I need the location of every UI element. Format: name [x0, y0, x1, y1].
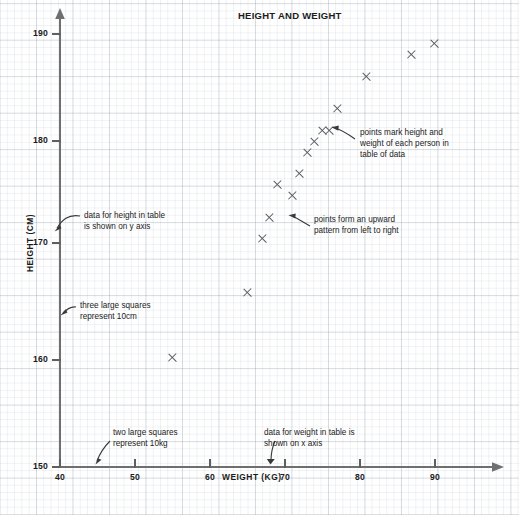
y-tick-160: [52, 359, 61, 361]
y-tick-190: [52, 33, 61, 35]
x-tick-label-50: 50: [122, 472, 148, 482]
x-tick-40: [59, 459, 61, 468]
x-tick-90: [434, 459, 436, 468]
x-axis-title: WEIGHT (KG): [222, 472, 281, 482]
plot-area: HEIGHT AND WEIGHT 190 180 170 160 150 40…: [0, 0, 519, 515]
axis-arrowheads: [0, 0, 519, 515]
x-tick-70: [284, 459, 286, 468]
y-axis-title: HEIGHT (CM): [25, 203, 35, 283]
x-tick-60: [209, 459, 211, 468]
y-tick-label-150: 150: [22, 461, 48, 471]
x-tick-label-80: 80: [347, 472, 373, 482]
annotation-x-axis-note: data for weight in table is shown on x a…: [264, 427, 394, 449]
data-point-marker: [167, 352, 178, 363]
annotation-weight-grid-note: two large squares represent 10kg: [113, 427, 223, 449]
x-tick-80: [359, 459, 361, 468]
annotation-height-grid-note: three large squares represent 10cm: [80, 300, 190, 322]
data-point-marker: [242, 287, 253, 298]
data-point-marker: [429, 38, 440, 49]
data-point-marker: [286, 190, 297, 201]
data-point-marker: [256, 233, 267, 244]
x-tick-label-40: 40: [47, 472, 73, 482]
data-point-marker: [331, 103, 342, 114]
data-point-marker: [271, 179, 282, 190]
data-point-marker: [324, 125, 335, 136]
x-tick-label-60: 60: [197, 472, 223, 482]
data-point-marker: [264, 212, 275, 223]
annotation-points-meaning-note: points mark height and weight of each pe…: [360, 127, 496, 161]
chart-title: HEIGHT AND WEIGHT: [238, 10, 342, 21]
y-tick-170: [52, 242, 61, 244]
data-point-marker: [301, 147, 312, 158]
x-axis-line: [59, 466, 496, 468]
annotation-y-axis-note: data for height in table is shown on y a…: [84, 210, 204, 232]
y-tick-label-180: 180: [22, 135, 48, 145]
annotation-trend-note: points form an upward pattern from left …: [314, 214, 454, 236]
data-point-marker: [294, 168, 305, 179]
x-tick-label-90: 90: [422, 472, 448, 482]
data-point-marker: [361, 71, 372, 82]
y-tick-180: [52, 140, 61, 142]
x-tick-50: [134, 459, 136, 468]
data-point-marker: [309, 136, 320, 147]
annotation-leader-lines: [0, 0, 519, 515]
scatter-chart-page: HEIGHT AND WEIGHT 190 180 170 160 150 40…: [0, 0, 519, 515]
data-point-marker: [406, 49, 417, 60]
y-tick-label-160: 160: [22, 354, 48, 364]
y-tick-label-190: 190: [22, 28, 48, 38]
